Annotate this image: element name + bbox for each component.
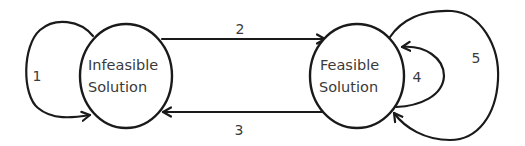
node-infeasible-label-line1: Infeasible	[88, 57, 158, 73]
state-diagram: 1 2 3 5 4 Infeasible Solution Feasible S…	[0, 0, 525, 146]
node-feasible-solution: Feasible Solution	[310, 24, 404, 128]
node-feasible-label-line1: Feasible	[320, 57, 379, 73]
edge-3-transition: 3	[163, 112, 325, 138]
edge-2-label: 2	[236, 21, 245, 37]
node-feasible-label-line2: Solution	[319, 79, 378, 95]
node-infeasible-shape	[80, 24, 172, 128]
edge-1-label: 1	[33, 68, 42, 84]
edge-4-label: 4	[413, 69, 422, 85]
node-feasible-shape	[310, 24, 404, 128]
edge-2-transition: 2	[162, 21, 325, 39]
node-infeasible-label-line2: Solution	[88, 79, 147, 95]
edge-3-label: 3	[235, 122, 244, 138]
edge-5-label: 5	[472, 50, 481, 66]
node-infeasible-solution: Infeasible Solution	[80, 24, 172, 128]
